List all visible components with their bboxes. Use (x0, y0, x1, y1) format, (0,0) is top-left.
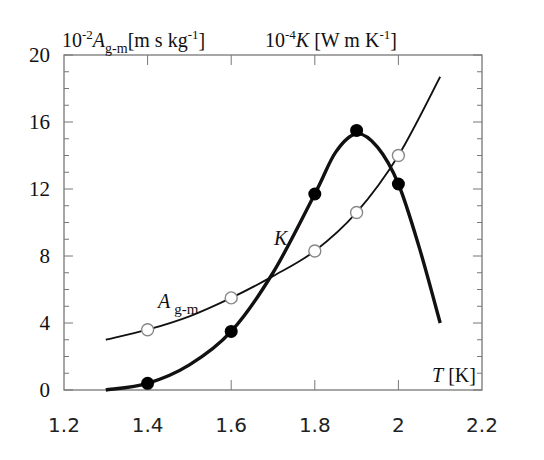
x-tick-label: 1.2 (48, 413, 80, 437)
open-circle-marker (309, 245, 321, 257)
filled-circle-marker (225, 325, 238, 338)
curve-label-a-gm: Ag-m (156, 290, 199, 317)
x-tick-label: 2.2 (466, 413, 498, 437)
k-curve (106, 134, 440, 390)
x-axis-label: T [K] (432, 364, 476, 386)
curve-label-k: K (273, 227, 289, 249)
y-tick-label: 20 (29, 43, 50, 67)
plot-frame (64, 55, 482, 390)
x-axis-tick-labels: 1.21.41.61.822.2 (48, 413, 498, 437)
y-tick-label: 0 (40, 378, 51, 402)
open-circle-marker (392, 150, 404, 162)
x-tick-label: 1.6 (215, 413, 247, 437)
x-tick-label: 1.4 (132, 413, 164, 437)
y-axis-tick-labels: 048121620 (29, 43, 51, 402)
filled-circle-marker (392, 177, 405, 190)
k-markers (141, 124, 405, 390)
right-axis-label: 10-4K [W m K-1] (265, 27, 397, 51)
y-tick-label: 4 (40, 311, 51, 335)
filled-circle-marker (308, 188, 321, 201)
open-circle-marker (142, 324, 154, 336)
filled-circle-marker (141, 377, 154, 390)
chart-canvas: 048121620 1.21.41.61.822.2 10-2Ag-m[m s … (0, 0, 544, 460)
x-tick-label: 2 (392, 413, 405, 437)
open-circle-marker (225, 292, 237, 304)
y-tick-label: 8 (40, 244, 51, 268)
left-axis-label: 10-2Ag-m[m s kg-1] (62, 27, 205, 56)
axis-ticks (64, 55, 482, 390)
open-circle-marker (351, 206, 363, 218)
y-tick-label: 16 (29, 110, 50, 134)
y-tick-label: 12 (29, 177, 50, 201)
a-gm-curve (106, 77, 440, 340)
x-tick-label: 1.8 (299, 413, 331, 437)
filled-circle-marker (350, 124, 363, 137)
